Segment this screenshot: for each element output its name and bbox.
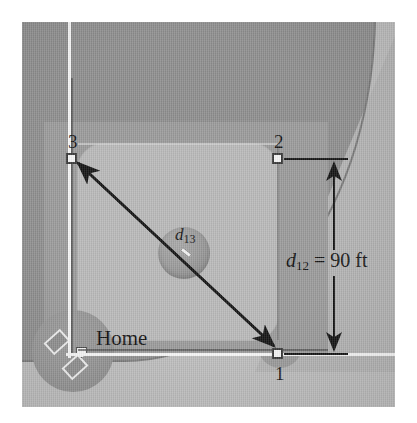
foul-line-right (66, 353, 395, 356)
d13-symbol: d (175, 225, 184, 244)
baseball-field-image: 3 2 1 Home d13 d12 = 90 ft (22, 22, 395, 407)
second-base-marker (272, 153, 283, 164)
d12-value: 90 (330, 249, 350, 271)
d12-subscript: 12 (296, 258, 309, 273)
d13-subscript: 13 (184, 232, 196, 246)
home-plate-label: Home (96, 328, 147, 349)
grass-edge-right (277, 146, 279, 340)
d12-label: d12 = 90 ft (286, 250, 368, 272)
foul-line-left-shadow (71, 78, 73, 356)
home-plate-circle (32, 310, 114, 392)
d13-label: d13 (175, 226, 196, 245)
d12-symbol: d (286, 249, 296, 271)
first-base-marker (272, 348, 283, 359)
figure-canvas: 3 2 1 Home d13 d12 = 90 ft (0, 0, 417, 423)
third-base-marker (66, 153, 77, 164)
second-base-label: 2 (274, 132, 284, 151)
first-base-label: 1 (275, 364, 285, 383)
d12-unit: ft (355, 249, 367, 271)
d12-equals: = (314, 249, 325, 271)
grass-edge-top (78, 143, 278, 145)
third-base-label: 3 (68, 132, 78, 151)
